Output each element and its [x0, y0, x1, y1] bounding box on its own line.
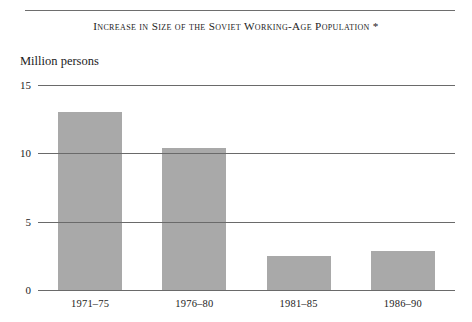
y-axis-unit-label: Million persons	[20, 54, 99, 69]
bar	[162, 148, 226, 290]
gridline-10: 10	[38, 153, 455, 154]
plot-area: 051015	[38, 85, 455, 290]
x-axis-category-label: 1971–75	[71, 298, 109, 309]
y-axis-tick-label: 10	[20, 148, 31, 159]
bar	[371, 251, 435, 290]
gridline-15: 15	[38, 85, 455, 86]
chart-title: Increase in Size of the Soviet Working-A…	[0, 20, 472, 32]
x-axis-category-label: 1981–85	[280, 298, 318, 309]
y-axis-tick-label: 5	[26, 216, 32, 227]
y-axis-tick-label: 0	[26, 285, 32, 296]
gridline-5: 5	[38, 222, 455, 223]
y-axis-tick-label: 15	[20, 80, 31, 91]
bar	[58, 112, 122, 290]
x-axis-category-label: 1986–90	[384, 298, 422, 309]
x-axis-category-label: 1976–80	[175, 298, 213, 309]
top-divider-rule	[25, 10, 455, 11]
chart-figure: Increase in Size of the Soviet Working-A…	[0, 0, 472, 322]
bar	[267, 256, 331, 290]
gridline-0: 0	[38, 290, 455, 291]
